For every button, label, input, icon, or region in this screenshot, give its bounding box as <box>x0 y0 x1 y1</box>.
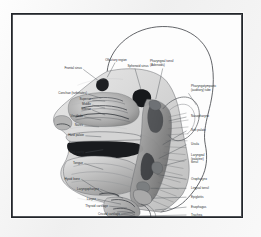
label-pharyngeal-tonsil: Pharyngeal tonsil (Adenoids) <box>150 60 202 67</box>
label-concha-middle: Middle <box>32 103 91 107</box>
label-nares: Nares <box>18 124 83 128</box>
label-soft-palate: Soft palate <box>191 129 243 133</box>
label-olfactory-region: Olfactory region <box>92 59 140 63</box>
label-larynx: Larynx <box>40 198 96 202</box>
label-conchae-turbinates: Conchae (turbinates) <box>12 92 87 96</box>
label-laryngeal-tonsil: Laryngeal (palatine) tonsil <box>191 154 243 165</box>
label-concha-inferior: Inferior <box>32 108 91 112</box>
label-oral-cavity: Oral cavity <box>16 151 84 155</box>
label-epiglottis: Epiglottis <box>191 196 243 200</box>
figure-frame: Frontal sinus Conchae (turbinates) Super… <box>11 13 243 218</box>
label-tongue: Tongue <box>18 162 83 166</box>
label-oropharynx: Oropharynx <box>191 178 243 182</box>
label-uvula: Uvula <box>191 143 243 147</box>
label-frontal-sinus: Frontal sinus <box>14 67 82 71</box>
label-nasopharynx: Nasopharynx <box>191 115 243 119</box>
label-hyoid-bone: Hyoid bone <box>12 178 80 182</box>
label-concha-superior: Superior <box>32 98 91 102</box>
label-trachea: Trachea <box>191 214 243 218</box>
label-pharyngotympanic-tube: Pharyngotympanic (auditory) tube <box>191 85 243 92</box>
label-laryngopharynx: Laryngopharynx <box>26 188 99 192</box>
label-vestibule: Vestibule <box>18 115 83 119</box>
label-hard-palate: Hard palate <box>14 134 84 138</box>
label-lingual-tonsil: Lingual tonsil <box>191 187 243 191</box>
label-cricoid-cartilage: Cricoid cartilage <box>52 213 120 217</box>
screenshot-root: Frontal sinus Conchae (turbinates) Super… <box>0 0 261 237</box>
label-esophagus: Esophagus <box>191 206 243 210</box>
label-thyroid-cartilage: Thyroid cartilage <box>38 205 108 209</box>
